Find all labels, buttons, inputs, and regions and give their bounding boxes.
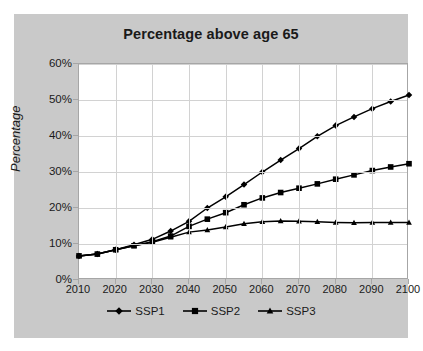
y-axis-tick-label: 60% [14, 57, 72, 69]
gridline-horizontal [79, 208, 407, 209]
y-axis-tick-mark [73, 207, 78, 208]
data-point-marker [278, 190, 284, 196]
y-axis-tick-mark [73, 243, 78, 244]
gridline-vertical [299, 64, 300, 278]
gridline-vertical [372, 64, 373, 278]
series-ssp3 [76, 218, 412, 258]
gridline-vertical [189, 64, 190, 278]
legend-label: SSP3 [286, 305, 315, 317]
gridline-vertical [262, 64, 263, 278]
gridline-horizontal [79, 244, 407, 245]
gridline-horizontal [79, 172, 407, 173]
gridline-vertical [152, 64, 153, 278]
series-line [79, 164, 409, 256]
y-axis-tick-label: 10% [14, 237, 72, 249]
x-axis-tick-mark [335, 279, 336, 284]
gridline-vertical [116, 64, 117, 278]
x-axis-tick-mark [408, 279, 409, 284]
y-axis-tick-label: 40% [14, 129, 72, 141]
data-point-marker [205, 216, 211, 222]
gridline-horizontal [79, 136, 407, 137]
data-point-marker [406, 161, 412, 167]
legend-marker-triangle-icon [257, 305, 283, 317]
legend-item-ssp3[interactable]: SSP3 [257, 305, 315, 317]
y-axis-tick-mark [73, 171, 78, 172]
chart-plot-container: Percentage above age 65 Percentage 0%10%… [14, 14, 408, 338]
data-point-marker [315, 181, 321, 187]
legend-item-ssp1[interactable]: SSP1 [106, 305, 164, 317]
x-axis-tick-mark [261, 279, 262, 284]
legend-label: SSP2 [211, 305, 240, 317]
x-axis-tick-mark [298, 279, 299, 284]
x-axis-tick-label: 2100 [385, 283, 423, 295]
legend-marker-square-icon [182, 305, 208, 317]
gridline-vertical [226, 64, 227, 278]
y-axis-tick-mark [73, 135, 78, 136]
gridline-horizontal [79, 100, 407, 101]
x-axis-tick-mark [78, 279, 79, 284]
x-axis-tick-mark [371, 279, 372, 284]
chart-legend: SSP1SSP2SSP3 [14, 305, 408, 317]
y-axis-tick-label: 20% [14, 201, 72, 213]
x-axis-tick-mark [151, 279, 152, 284]
series-line [79, 221, 409, 256]
series-line [79, 95, 409, 256]
gridline-horizontal [79, 64, 407, 65]
x-axis-tick-mark [225, 279, 226, 284]
gridline-vertical [336, 64, 337, 278]
legend-item-ssp2[interactable]: SSP2 [182, 305, 240, 317]
x-axis-tick-mark [115, 279, 116, 284]
data-point-marker [351, 114, 358, 121]
chart-title: Percentage above age 65 [14, 26, 408, 42]
y-axis-tick-mark [73, 99, 78, 100]
legend-label: SSP1 [135, 305, 164, 317]
y-axis-tick-mark [73, 63, 78, 64]
y-axis-tick-label: 30% [14, 165, 72, 177]
legend-marker-diamond-icon [106, 305, 132, 317]
plot-frame [78, 63, 408, 279]
chart-figure: Percentage above age 65 Percentage 0%10%… [0, 0, 423, 351]
y-axis-tick-label: 50% [14, 93, 72, 105]
x-axis-tick-mark [188, 279, 189, 284]
data-point-marker [388, 164, 394, 170]
series-ssp1 [76, 92, 413, 259]
data-point-marker [241, 202, 247, 208]
data-point-marker [406, 92, 413, 99]
